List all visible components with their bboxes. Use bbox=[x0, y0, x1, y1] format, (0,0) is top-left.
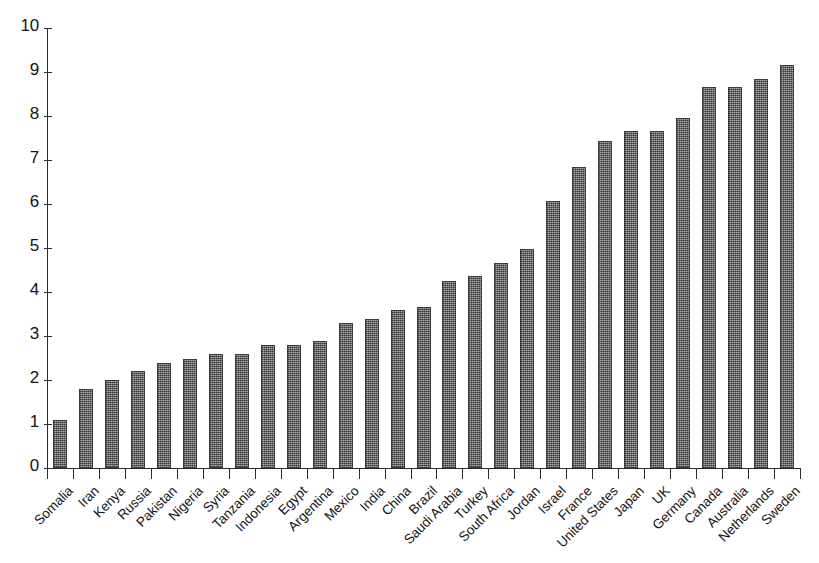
x-axis-tick-mark bbox=[307, 468, 308, 479]
x-axis-tick-label-text: South Africa bbox=[457, 484, 518, 545]
y-axis-tick-label: 3 bbox=[30, 325, 39, 342]
y-axis-tick-label: 9 bbox=[30, 61, 39, 78]
bar bbox=[417, 307, 431, 468]
bar bbox=[53, 420, 67, 468]
bar bbox=[131, 371, 145, 468]
x-axis-tick-mark bbox=[125, 468, 126, 479]
x-axis-tick-label-text: Nigeria bbox=[166, 484, 206, 524]
x-axis-tick-label-text: Indonesia bbox=[233, 484, 284, 535]
x-axis-tick-label-text: France bbox=[556, 484, 595, 523]
x-axis-tick-mark bbox=[670, 468, 671, 479]
bar bbox=[313, 341, 327, 468]
x-axis-tick-label-text: Mexico bbox=[322, 484, 362, 524]
x-axis-tick-label-text: Pakistan bbox=[134, 484, 180, 530]
bar bbox=[391, 310, 405, 468]
y-axis-tick-label: 2 bbox=[30, 369, 39, 386]
bar bbox=[339, 323, 353, 468]
bar bbox=[546, 201, 560, 468]
y-axis-tick-label: 5 bbox=[30, 237, 39, 254]
x-axis-tick-label-text: Brazil bbox=[406, 484, 439, 517]
x-axis-tick-mark bbox=[462, 468, 463, 479]
x-axis-tick-mark bbox=[203, 468, 204, 479]
bar bbox=[702, 87, 716, 468]
x-axis-tick-label-text: Argentina bbox=[285, 484, 335, 534]
bar bbox=[365, 319, 379, 468]
y-axis-tick-label: 1 bbox=[30, 413, 39, 430]
x-axis-tick-mark bbox=[748, 468, 749, 479]
x-axis-tick-mark bbox=[73, 468, 74, 479]
bar bbox=[157, 363, 171, 468]
bar-chart: 012345678910 SomaliaIranKenyaRussiaPakis… bbox=[0, 0, 819, 563]
x-axis-tick-label-text: Tanzania bbox=[210, 484, 258, 532]
bar bbox=[624, 131, 638, 468]
bar bbox=[520, 249, 534, 468]
bar bbox=[468, 276, 482, 468]
x-axis-tick-label-text: Turkey bbox=[453, 484, 491, 522]
x-axis-tick-label-text: Jordan bbox=[505, 484, 544, 523]
bar bbox=[183, 359, 197, 468]
bar bbox=[209, 354, 223, 468]
x-axis-tick-label-text: UK bbox=[650, 484, 673, 507]
x-axis-tick-mark bbox=[99, 468, 100, 479]
bar bbox=[598, 141, 612, 468]
x-axis-tick-mark bbox=[696, 468, 697, 479]
bar bbox=[572, 167, 586, 468]
x-axis-tick-label-text: Netherlands bbox=[716, 484, 777, 545]
bar bbox=[728, 87, 742, 468]
bar bbox=[287, 345, 301, 468]
x-axis-tick-mark bbox=[592, 468, 593, 479]
x-axis-tick-mark bbox=[644, 468, 645, 479]
x-axis-tick-mark bbox=[47, 468, 48, 479]
x-axis-tick-mark bbox=[385, 468, 386, 479]
x-axis-tick-label-text: India bbox=[357, 484, 387, 514]
x-axis-tick-mark bbox=[514, 468, 515, 479]
x-axis-tick-mark bbox=[255, 468, 256, 479]
x-axis-tick-mark bbox=[281, 468, 282, 479]
x-axis-tick-mark bbox=[540, 468, 541, 479]
x-axis-tick-label-text: Iran bbox=[76, 484, 102, 510]
x-axis-tick-label-text: Israel bbox=[536, 484, 569, 517]
x-axis-tick-mark bbox=[566, 468, 567, 479]
bar bbox=[494, 263, 508, 468]
x-axis-tick-mark bbox=[618, 468, 619, 479]
x-axis-tick-label-text: United States bbox=[555, 484, 621, 550]
y-axis-tick-label: 8 bbox=[30, 105, 39, 122]
x-axis-tick-label-text: Sweden bbox=[759, 484, 803, 528]
x-axis-tick-label-text: Australia bbox=[705, 484, 751, 530]
x-axis-tick-label-text: Kenya bbox=[91, 484, 128, 521]
bar bbox=[235, 354, 249, 468]
bar bbox=[442, 281, 456, 468]
x-axis-tick-mark bbox=[229, 468, 230, 479]
x-axis-tick-label-text: Saudi Arabia bbox=[402, 484, 465, 547]
bar bbox=[754, 79, 768, 468]
x-axis-tick-label-text: Canada bbox=[682, 484, 725, 527]
x-axis-tick-label-text: Syria bbox=[200, 484, 231, 515]
x-axis-tick-mark bbox=[722, 468, 723, 479]
x-axis-tick-mark bbox=[774, 468, 775, 479]
bar bbox=[261, 345, 275, 468]
x-axis-tick-label-text: Egypt bbox=[276, 484, 310, 518]
x-axis-tick-mark bbox=[488, 468, 489, 479]
bar bbox=[105, 380, 119, 468]
bar bbox=[780, 65, 794, 468]
x-axis-tick-mark bbox=[436, 468, 437, 479]
y-axis-tick-label: 0 bbox=[30, 457, 39, 474]
x-axis-tick-label-text: China bbox=[379, 484, 413, 518]
x-axis-tick-mark bbox=[177, 468, 178, 479]
x-axis-tick-mark bbox=[800, 468, 801, 479]
x-axis-tick-mark bbox=[411, 468, 412, 479]
y-axis-tick-label: 7 bbox=[30, 149, 39, 166]
plot-area bbox=[47, 28, 800, 468]
bar bbox=[79, 389, 93, 468]
x-axis-tick-label-text: Germany bbox=[650, 484, 699, 533]
y-axis-tick-label: 6 bbox=[30, 193, 39, 210]
y-axis-tick-label: 10 bbox=[20, 17, 39, 34]
x-axis-tick-label-text: Russia bbox=[115, 484, 154, 523]
y-axis-tick-label: 4 bbox=[30, 281, 39, 298]
x-axis-tick-mark bbox=[333, 468, 334, 479]
x-axis-tick-label-text: Japan bbox=[612, 484, 648, 520]
x-axis-ticks bbox=[47, 468, 800, 482]
bar bbox=[650, 131, 664, 468]
x-axis-tick-mark bbox=[359, 468, 360, 479]
x-axis-tick-mark bbox=[151, 468, 152, 479]
